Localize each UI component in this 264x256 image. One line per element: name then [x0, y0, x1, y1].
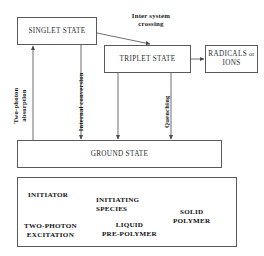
diagram-canvas: SINGLET STATE TRIPLET STATE RADICALS or … — [0, 0, 264, 256]
box-radicals-or-ions-label: RADICALS or IONS — [208, 50, 255, 68]
label-two-photon-absorption: Two-photon absorption — [12, 68, 27, 144]
box-singlet-state-label: SINGLET STATE — [28, 27, 85, 36]
sp-line2: POLYMER — [173, 217, 210, 226]
label-internal-conversion: Internal conversion — [77, 64, 85, 140]
box-ground-state: GROUND STATE — [17, 140, 222, 168]
isc-line2: crossing — [138, 20, 163, 27]
radicals-line2: IONS — [222, 59, 240, 67]
box-radicals-or-ions: RADICALS or IONS — [205, 45, 258, 73]
sp-line1: SOLID — [173, 208, 210, 217]
box-triplet-state-label: TRIPLET STATE — [120, 55, 176, 64]
tpe-line2: EXCITATION — [24, 231, 77, 240]
tpa-line2: absorption — [20, 89, 27, 121]
label-quenching: Quenching — [163, 82, 171, 142]
label-initiator: INITIATOR — [28, 191, 68, 200]
is-line2: SPECIES — [96, 205, 139, 214]
label-inter-system-crossing: Inter system crossing — [118, 12, 184, 29]
isc-line1: Inter system — [132, 12, 170, 19]
radicals-or: or — [249, 50, 255, 57]
lp-line2: PRE-POLYMER — [102, 230, 157, 239]
box-ground-state-label: GROUND STATE — [91, 150, 149, 159]
label-solid-polymer: SOLID POLYMER — [173, 208, 210, 225]
tpa-line1: Two-photon — [12, 88, 19, 124]
tpe-line1: TWO-PHOTON — [24, 222, 77, 231]
label-initiating-species: INITIATING SPECIES — [96, 196, 139, 213]
lp-line1: LIQUID — [102, 221, 157, 230]
radicals-line1: RADICALS — [208, 50, 247, 58]
label-liquid-pre-polymer: LIQUID PRE-POLYMER — [102, 221, 157, 238]
box-triplet-state: TRIPLET STATE — [104, 45, 191, 73]
is-line1: INITIATING — [96, 196, 139, 205]
arrow-inter-system-crossing — [97, 33, 150, 44]
label-two-photon-excitation: TWO-PHOTON EXCITATION — [24, 222, 77, 239]
box-singlet-state: SINGLET STATE — [17, 17, 97, 45]
